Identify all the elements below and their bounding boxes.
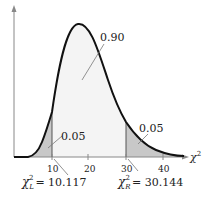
x-axis-label: χ2 — [189, 150, 201, 164]
right-area-label: 0.05 — [139, 122, 164, 135]
y-axis-arrow — [12, 5, 17, 12]
right-critical-label: χR2= 30.144 — [117, 174, 183, 191]
tick-label-30: 30 — [121, 164, 133, 174]
tick-label-10: 10 — [47, 164, 59, 174]
tick-label-40: 40 — [158, 164, 170, 174]
chi-square-diagram: 0.90 0.05 0.05 χ2 10 20 30 40 χL2= 10.11… — [0, 0, 214, 203]
left-tail-region — [28, 112, 52, 157]
left-area-label: 0.05 — [61, 130, 86, 143]
left-critical-label: χL2= 10.117 — [21, 174, 87, 191]
middle-area-label: 0.90 — [100, 31, 125, 44]
tick-label-20: 20 — [84, 164, 96, 174]
